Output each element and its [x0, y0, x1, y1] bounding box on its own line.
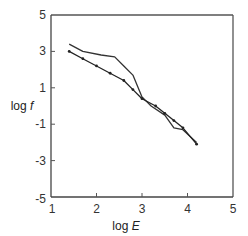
- data-point: [172, 119, 175, 122]
- x-tick-label: 2: [93, 202, 100, 216]
- series-line-lower-dotted: [69, 51, 196, 144]
- y-tick-label: 5: [39, 8, 46, 22]
- y-tick-label: 3: [39, 44, 46, 58]
- data-point: [95, 65, 98, 68]
- y-tick-label: 1: [39, 81, 46, 95]
- data-point: [195, 143, 198, 146]
- data-point: [122, 79, 125, 82]
- data-point: [182, 126, 185, 129]
- y-tick-label: -1: [35, 117, 46, 131]
- data-point: [154, 105, 157, 108]
- data-point: [68, 50, 71, 53]
- chart: 12345 -5-3-1135 log E log f: [0, 0, 248, 236]
- x-axis-label: log E: [112, 219, 140, 233]
- data-point: [132, 88, 135, 91]
- x-tick-label: 1: [49, 202, 56, 216]
- x-tick-label: 5: [230, 202, 237, 216]
- series-group: [68, 44, 198, 146]
- data-point: [109, 72, 112, 75]
- data-point: [81, 57, 84, 60]
- y-tick-label: -5: [35, 192, 46, 206]
- data-point: [141, 97, 144, 100]
- data-point: [163, 112, 166, 115]
- y-axis-ticks: -5-3-1135: [35, 8, 55, 206]
- x-tick-label: 3: [139, 202, 146, 216]
- y-tick-label: -3: [35, 154, 46, 168]
- x-tick-label: 4: [184, 202, 191, 216]
- plot-frame: [51, 15, 233, 197]
- series-line-upper-solid: [69, 44, 196, 142]
- y-axis-label: log f: [11, 99, 35, 113]
